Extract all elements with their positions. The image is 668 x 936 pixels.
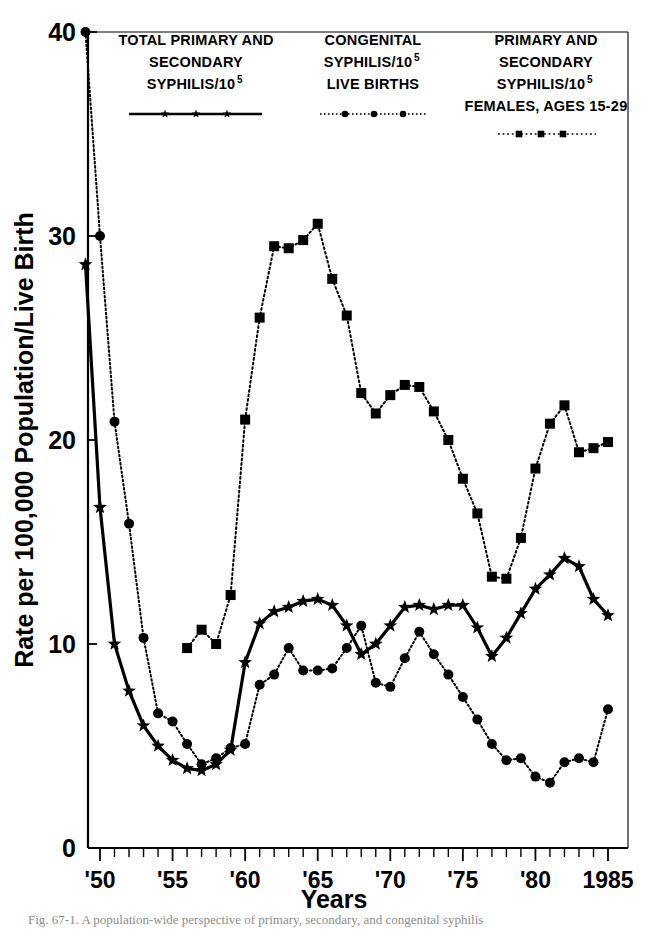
legend-line-1: CONGENITAL — [325, 32, 422, 48]
legend-line-2: SYPHILIS/10 — [324, 54, 412, 70]
data-point-square — [298, 235, 308, 245]
figure-caption: Fig. 67-1. A population-wide perspective… — [28, 912, 648, 928]
data-point-circle — [414, 627, 424, 637]
data-point-square — [211, 639, 221, 649]
data-point-square — [269, 241, 279, 251]
data-point-circle — [95, 231, 105, 241]
data-point-square — [385, 390, 395, 400]
data-point-square — [574, 447, 584, 457]
data-point-circle — [356, 621, 366, 631]
data-point-star — [137, 718, 151, 731]
plot-frame — [88, 32, 628, 848]
data-point-circle — [240, 739, 250, 749]
data-point-star — [427, 602, 441, 615]
data-point-circle — [472, 714, 482, 724]
data-point-circle — [588, 757, 598, 767]
y-tick-label: 40 — [48, 18, 76, 46]
x-tick-label: 1985 — [582, 867, 633, 893]
data-point-square — [313, 219, 323, 229]
data-point-square — [545, 419, 555, 429]
data-point-square — [443, 435, 453, 445]
data-point-square — [559, 400, 569, 410]
data-point-circle — [284, 643, 294, 653]
data-point-star — [282, 600, 296, 613]
figure-container: 010203040 '50'55'60'65'70'75'801985 Year… — [0, 0, 668, 936]
data-point-square — [414, 382, 424, 392]
data-point-star — [442, 598, 456, 611]
data-point-circle — [400, 111, 407, 118]
data-point-circle — [545, 778, 555, 788]
legend-line-3: LIVE BIRTHS — [327, 76, 420, 92]
data-point-circle — [501, 755, 511, 765]
legend-line-2: SECONDARY — [499, 54, 593, 70]
legend-line-2: SECONDARY — [149, 54, 243, 70]
data-point-star — [456, 598, 470, 611]
data-point-star — [192, 110, 201, 118]
legend-line-1: PRIMARY AND — [494, 32, 597, 48]
legend-swatch-star — [129, 110, 262, 118]
data-point-circle — [110, 417, 120, 427]
legend-entry-ps-females: PRIMARY AND SECONDARY SYPHILIS/10 5 FEMA… — [465, 32, 628, 137]
legend-entry-total-ps-syphilis: TOTAL PRIMARY AND SECONDARY SYPHILIS/10 … — [118, 32, 273, 118]
legend-superscript: 5 — [237, 74, 243, 85]
syphilis-rate-line-chart: 010203040 '50'55'60'65'70'75'801985 Year… — [0, 0, 668, 920]
data-point-star — [180, 761, 194, 774]
data-point-circle — [168, 717, 178, 727]
data-point-circle — [487, 739, 497, 749]
data-point-circle — [298, 666, 308, 676]
y-tick-label: 30 — [48, 222, 76, 250]
data-point-circle — [574, 753, 584, 763]
data-point-square — [284, 243, 294, 253]
data-point-star — [161, 110, 170, 118]
data-point-star — [296, 594, 310, 607]
data-point-square — [240, 415, 250, 425]
data-point-circle — [197, 759, 207, 769]
data-point-circle — [530, 772, 540, 782]
data-point-circle — [327, 663, 337, 673]
series-total-ps-syphilis — [79, 257, 615, 776]
data-point-circle — [603, 704, 613, 714]
data-point-circle — [313, 666, 323, 676]
data-point-square — [327, 274, 337, 284]
data-point-circle — [182, 739, 192, 749]
data-point-square — [560, 131, 567, 138]
data-point-circle — [371, 678, 381, 688]
data-point-star — [325, 598, 339, 611]
legend-line-3: SYPHILIS/10 — [147, 76, 235, 92]
legend-line-1: TOTAL PRIMARY AND — [118, 32, 273, 48]
x-tick-label: '60 — [230, 867, 261, 893]
data-point-circle — [385, 682, 395, 692]
data-point-circle — [342, 643, 352, 653]
legend-line-4: FEMALES, AGES 15-29 — [465, 98, 628, 114]
data-point-circle — [80, 27, 90, 37]
data-point-circle — [211, 753, 221, 763]
data-point-circle — [153, 708, 163, 718]
data-point-circle — [429, 649, 439, 659]
legend-swatch-circle — [320, 111, 428, 118]
legend-superscript: 5 — [587, 74, 593, 85]
data-point-circle — [400, 653, 410, 663]
y-axis-title: Rate per 100,000 Population/Live Birth — [10, 212, 38, 668]
data-point-square — [356, 388, 366, 398]
data-series-layer — [79, 27, 615, 788]
y-axis-ticks: 010203040 — [48, 18, 97, 862]
legend-swatch-square — [498, 131, 596, 138]
data-point-circle — [269, 670, 279, 680]
data-point-circle — [139, 633, 149, 643]
data-point-star — [412, 598, 426, 611]
y-tick-label: 20 — [48, 426, 76, 454]
series-ps-females-15-29 — [182, 219, 613, 653]
series-congenital-syphilis — [80, 27, 613, 788]
data-point-square — [371, 408, 381, 418]
data-point-circle — [559, 757, 569, 767]
y-tick-label: 0 — [62, 834, 76, 862]
data-point-circle — [443, 670, 453, 680]
data-point-square — [400, 380, 410, 390]
x-tick-label: '80 — [520, 867, 551, 893]
data-point-square — [472, 508, 482, 518]
data-point-circle — [124, 519, 134, 529]
x-tick-label: '55 — [157, 867, 188, 893]
data-point-circle — [255, 680, 265, 690]
data-point-square — [182, 643, 192, 653]
data-point-circle — [342, 111, 349, 118]
